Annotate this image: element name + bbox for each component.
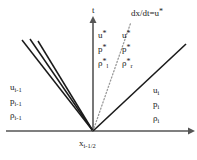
- star-left-density: ρ*l: [98, 59, 108, 68]
- star-left-pressure-base: p: [98, 44, 103, 54]
- left-state-velocity: ui-1: [10, 83, 22, 92]
- t-axis-label: t: [92, 6, 95, 15]
- right-state-velocity-base: u: [153, 85, 158, 95]
- star-right-density-star: *: [127, 57, 131, 66]
- left-state-density-base: ρ: [10, 110, 15, 120]
- star-left-state-labels: u* p* ρ*l: [98, 31, 108, 68]
- right-state-velocity-subscript: i: [158, 89, 160, 96]
- star-right-velocity: u*: [122, 31, 133, 40]
- right-state-pressure-base: p: [153, 99, 158, 109]
- star-left-velocity-star: *: [103, 29, 107, 38]
- x-axis-label-base: x: [79, 138, 84, 148]
- left-state-labels: ui-1 pi-1 ρi-1: [10, 83, 22, 120]
- right-state-density-subscript: i: [158, 117, 160, 124]
- right-state-pressure-subscript: i: [158, 103, 160, 110]
- star-right-pressure-base: p: [122, 44, 127, 54]
- contact-slope-star: *: [159, 7, 163, 16]
- rarefaction-line-3: [38, 41, 93, 131]
- x-axis-label: xi-1/2: [79, 139, 96, 148]
- x-axis-arrowhead: [188, 128, 195, 135]
- star-right-density-base: ρ: [122, 58, 127, 68]
- star-right-pressure: p*: [122, 45, 133, 54]
- star-right-velocity-star: *: [127, 29, 131, 38]
- star-right-density: ρ*r: [122, 59, 133, 68]
- star-right-density-subscript: r: [131, 62, 133, 69]
- wave-diagram-canvas: [0, 0, 197, 160]
- rarefaction-line-1: [22, 40, 93, 131]
- right-state-density: ρi: [153, 114, 159, 123]
- star-right-velocity-base: u: [122, 30, 127, 40]
- left-state-pressure: pi-1: [10, 97, 22, 106]
- star-right-state-labels: u* p* ρ*r: [122, 31, 133, 68]
- star-right-pressure-star: *: [127, 43, 131, 52]
- contact-slope-text: dx/dt=u: [131, 8, 159, 18]
- left-state-pressure-subscript: i-1: [15, 100, 22, 107]
- contact-slope-annotation: dx/dt=u*: [131, 9, 163, 18]
- left-state-velocity-base: u: [10, 82, 15, 92]
- star-left-density-star: *: [103, 57, 107, 66]
- right-state-density-base: ρ: [153, 113, 158, 123]
- right-state-velocity: ui: [153, 86, 159, 95]
- star-left-density-subscript: l: [107, 62, 109, 69]
- left-state-pressure-base: p: [10, 96, 15, 106]
- star-left-pressure: p*: [98, 45, 108, 54]
- star-left-pressure-star: *: [103, 43, 107, 52]
- right-state-labels: ui pi ρi: [153, 86, 159, 123]
- left-state-velocity-subscript: i-1: [15, 86, 22, 93]
- t-axis-arrowhead: [90, 16, 97, 23]
- star-left-velocity-base: u: [98, 30, 103, 40]
- left-state-density: ρi-1: [10, 111, 22, 120]
- star-left-velocity: u*: [98, 31, 108, 40]
- rarefaction-line-2: [30, 39, 93, 131]
- left-state-density-subscript: i-1: [15, 114, 22, 121]
- right-state-pressure: pi: [153, 100, 159, 109]
- star-left-density-base: ρ: [98, 58, 103, 68]
- riemann-wave-diagram: t xi-1/2 dx/dt=u* ui-1 pi-1 ρi-1 ui pi ρ…: [0, 0, 197, 160]
- x-axis-label-subscript: i-1/2: [84, 142, 96, 149]
